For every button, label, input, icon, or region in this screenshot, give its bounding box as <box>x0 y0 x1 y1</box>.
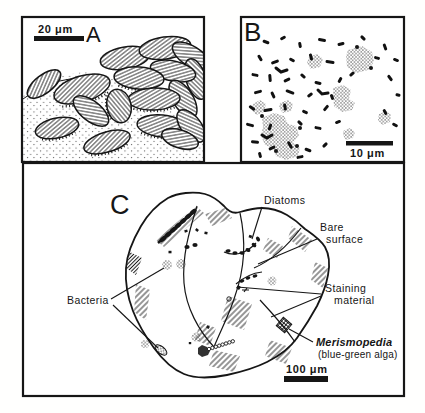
label-merismopedia: Merismopedia <box>316 336 392 348</box>
label-staining-2: material <box>334 294 375 306</box>
label-bare-surface-2: surface <box>326 233 363 245</box>
label-bacteria: Bacteria <box>67 294 109 306</box>
label-merismopedia-sub: (blue-green alga) <box>318 349 398 360</box>
panel-b: 10 μm B <box>241 17 404 162</box>
panel-a: 20 μm A <box>22 17 214 162</box>
scale-label-a: 20 μm <box>38 23 73 35</box>
panel-c: Diatoms Bare surface Bacteria Staining m… <box>23 163 404 396</box>
panel-letter-a: A <box>86 22 101 47</box>
scale-label-b: 10 μm <box>350 147 385 159</box>
scale-bar-a <box>34 36 84 41</box>
scale-bar-c <box>284 376 328 382</box>
scale-bar-b <box>346 141 393 146</box>
scale-label-c: 100 μm <box>286 363 328 375</box>
figure-page: 20 μm A <box>0 0 425 413</box>
label-staining-1: Staining <box>325 282 366 294</box>
panel-letter-c: C <box>110 190 130 220</box>
label-bare-surface-1: Bare <box>320 221 344 233</box>
figure-canvas: 20 μm A <box>0 0 425 413</box>
label-diatoms: Diatoms <box>264 194 305 206</box>
panel-letter-b: B <box>244 17 261 47</box>
